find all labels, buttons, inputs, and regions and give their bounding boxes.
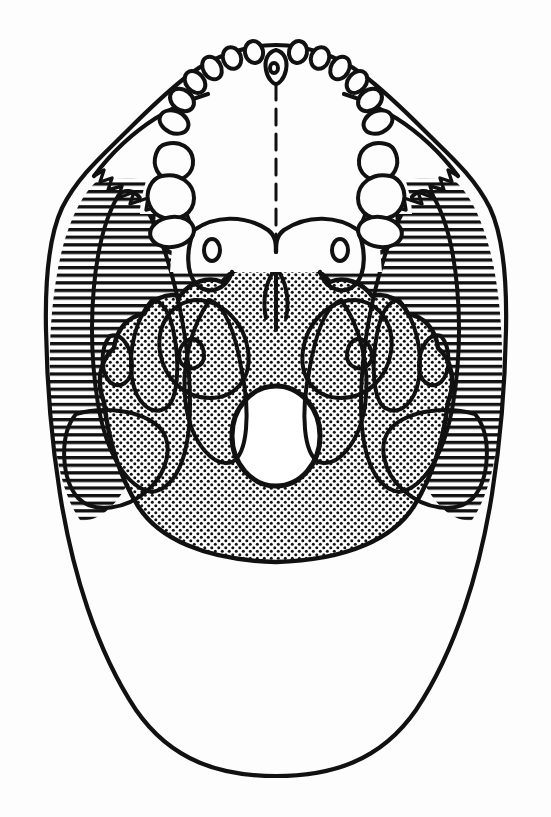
tooth-socket bbox=[358, 175, 404, 219]
figure-canvas: Skull base, inferior view (norma basalis… bbox=[0, 0, 551, 817]
tooth-socket bbox=[204, 239, 220, 261]
skull-base-illustration bbox=[0, 0, 551, 817]
incisive-foramen bbox=[270, 63, 278, 73]
tooth-socket bbox=[148, 175, 194, 219]
tooth-socket bbox=[332, 239, 348, 261]
